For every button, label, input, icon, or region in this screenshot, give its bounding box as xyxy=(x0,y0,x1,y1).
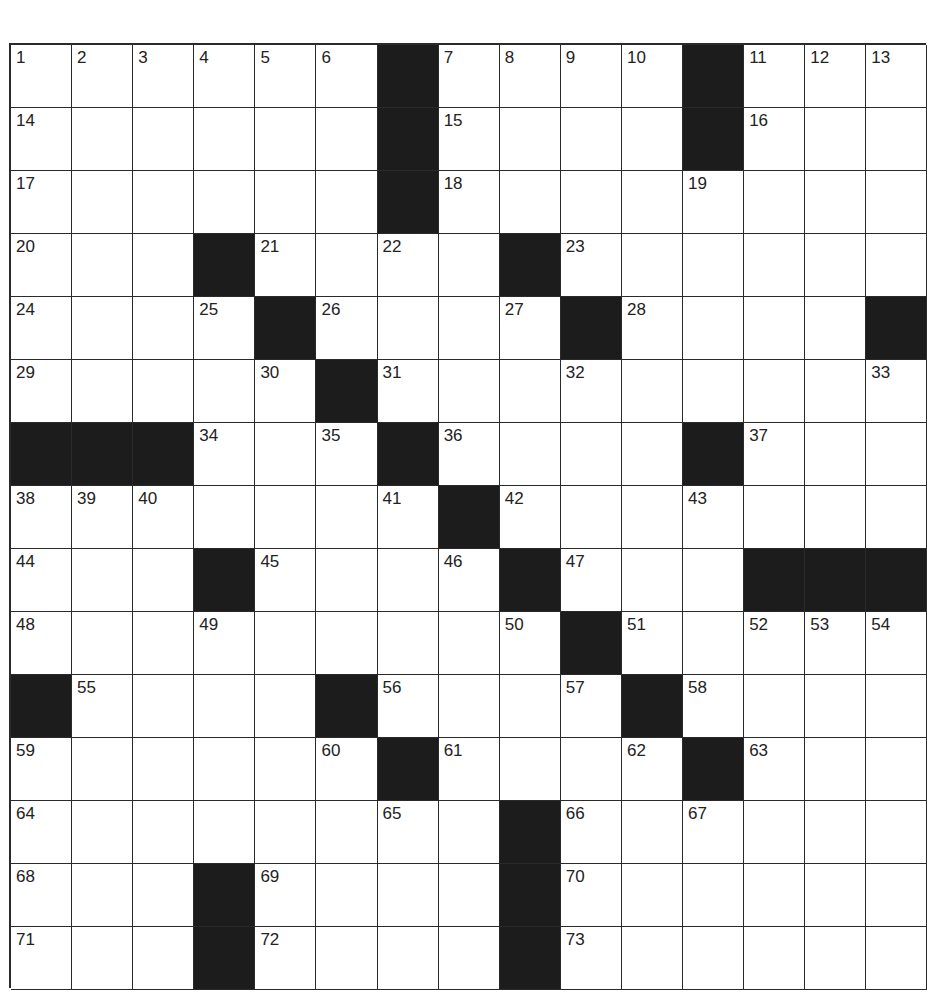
grid-cell[interactable] xyxy=(439,927,500,990)
grid-cell[interactable] xyxy=(683,927,744,990)
grid-cell[interactable] xyxy=(378,612,439,675)
grid-cell[interactable] xyxy=(378,927,439,990)
grid-cell[interactable] xyxy=(255,675,316,738)
grid-cell[interactable] xyxy=(133,360,194,423)
grid-cell[interactable] xyxy=(622,423,683,486)
grid-cell[interactable] xyxy=(805,486,866,549)
grid-cell[interactable] xyxy=(561,171,622,234)
grid-cell[interactable] xyxy=(316,864,377,927)
grid-cell[interactable] xyxy=(439,612,500,675)
grid-cell[interactable] xyxy=(866,864,927,927)
grid-cell[interactable] xyxy=(744,360,805,423)
grid-cell[interactable] xyxy=(561,423,622,486)
grid-cell[interactable] xyxy=(72,549,133,612)
grid-cell[interactable]: 3 xyxy=(133,45,194,108)
grid-cell[interactable] xyxy=(805,675,866,738)
grid-cell[interactable]: 32 xyxy=(561,360,622,423)
grid-cell[interactable]: 27 xyxy=(500,297,561,360)
grid-cell[interactable]: 29 xyxy=(11,360,72,423)
grid-cell[interactable] xyxy=(255,108,316,171)
grid-cell[interactable]: 73 xyxy=(561,927,622,990)
grid-cell[interactable] xyxy=(561,738,622,801)
grid-cell[interactable]: 6 xyxy=(316,45,377,108)
grid-cell[interactable]: 13 xyxy=(866,45,927,108)
grid-cell[interactable]: 16 xyxy=(744,108,805,171)
grid-cell[interactable]: 22 xyxy=(378,234,439,297)
grid-cell[interactable] xyxy=(316,612,377,675)
grid-cell[interactable]: 45 xyxy=(255,549,316,612)
grid-cell[interactable]: 53 xyxy=(805,612,866,675)
grid-cell[interactable] xyxy=(255,738,316,801)
grid-cell[interactable]: 11 xyxy=(744,45,805,108)
grid-cell[interactable]: 33 xyxy=(866,360,927,423)
grid-cell[interactable] xyxy=(805,801,866,864)
grid-cell[interactable]: 7 xyxy=(439,45,500,108)
grid-cell[interactable] xyxy=(500,423,561,486)
grid-cell[interactable]: 1 xyxy=(11,45,72,108)
grid-cell[interactable] xyxy=(255,612,316,675)
grid-cell[interactable] xyxy=(72,864,133,927)
grid-cell[interactable]: 54 xyxy=(866,612,927,675)
grid-cell[interactable] xyxy=(72,927,133,990)
grid-cell[interactable] xyxy=(439,234,500,297)
grid-cell[interactable]: 34 xyxy=(194,423,255,486)
grid-cell[interactable] xyxy=(744,171,805,234)
grid-cell[interactable]: 66 xyxy=(561,801,622,864)
grid-cell[interactable]: 25 xyxy=(194,297,255,360)
grid-cell[interactable] xyxy=(622,234,683,297)
grid-cell[interactable]: 8 xyxy=(500,45,561,108)
grid-cell[interactable] xyxy=(805,864,866,927)
grid-cell[interactable] xyxy=(744,864,805,927)
grid-cell[interactable] xyxy=(133,675,194,738)
grid-cell[interactable] xyxy=(622,549,683,612)
grid-cell[interactable]: 39 xyxy=(72,486,133,549)
grid-cell[interactable]: 70 xyxy=(561,864,622,927)
grid-cell[interactable]: 17 xyxy=(11,171,72,234)
grid-cell[interactable] xyxy=(866,738,927,801)
grid-cell[interactable] xyxy=(866,171,927,234)
grid-cell[interactable]: 63 xyxy=(744,738,805,801)
grid-cell[interactable] xyxy=(255,801,316,864)
grid-cell[interactable] xyxy=(683,549,744,612)
grid-cell[interactable] xyxy=(744,927,805,990)
grid-cell[interactable]: 36 xyxy=(439,423,500,486)
grid-cell[interactable] xyxy=(500,108,561,171)
grid-cell[interactable] xyxy=(439,675,500,738)
grid-cell[interactable]: 72 xyxy=(255,927,316,990)
grid-cell[interactable] xyxy=(439,297,500,360)
grid-cell[interactable] xyxy=(133,612,194,675)
grid-cell[interactable]: 58 xyxy=(683,675,744,738)
grid-cell[interactable] xyxy=(72,234,133,297)
grid-cell[interactable]: 46 xyxy=(439,549,500,612)
grid-cell[interactable] xyxy=(316,927,377,990)
grid-cell[interactable] xyxy=(744,801,805,864)
grid-cell[interactable] xyxy=(72,801,133,864)
grid-cell[interactable]: 71 xyxy=(11,927,72,990)
grid-cell[interactable] xyxy=(805,108,866,171)
grid-cell[interactable] xyxy=(622,801,683,864)
grid-cell[interactable] xyxy=(72,612,133,675)
grid-cell[interactable]: 24 xyxy=(11,297,72,360)
grid-cell[interactable] xyxy=(194,486,255,549)
grid-cell[interactable]: 5 xyxy=(255,45,316,108)
grid-cell[interactable] xyxy=(194,801,255,864)
grid-cell[interactable]: 40 xyxy=(133,486,194,549)
grid-cell[interactable] xyxy=(72,171,133,234)
grid-cell[interactable] xyxy=(133,549,194,612)
grid-cell[interactable] xyxy=(133,864,194,927)
grid-cell[interactable] xyxy=(439,801,500,864)
grid-cell[interactable] xyxy=(622,864,683,927)
grid-cell[interactable] xyxy=(500,360,561,423)
grid-cell[interactable] xyxy=(805,171,866,234)
grid-cell[interactable] xyxy=(805,927,866,990)
grid-cell[interactable] xyxy=(622,108,683,171)
grid-cell[interactable]: 68 xyxy=(11,864,72,927)
grid-cell[interactable] xyxy=(683,864,744,927)
grid-cell[interactable]: 12 xyxy=(805,45,866,108)
grid-cell[interactable] xyxy=(72,360,133,423)
grid-cell[interactable]: 20 xyxy=(11,234,72,297)
grid-cell[interactable]: 56 xyxy=(378,675,439,738)
grid-cell[interactable]: 52 xyxy=(744,612,805,675)
grid-cell[interactable] xyxy=(805,738,866,801)
grid-cell[interactable]: 55 xyxy=(72,675,133,738)
